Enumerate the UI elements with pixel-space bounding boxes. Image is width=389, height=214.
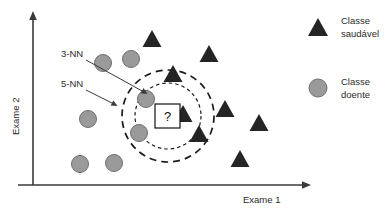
data-point-circle bbox=[80, 111, 97, 128]
data-point-triangle bbox=[250, 114, 269, 131]
figure-canvas: Exame 1 Exame 2 ? bbox=[0, 0, 389, 214]
data-point-triangle bbox=[190, 125, 209, 142]
data-point-triangle bbox=[143, 30, 162, 47]
legend-label-doente-line1: Classe bbox=[341, 76, 370, 87]
legend: Classe saudável Classe doente bbox=[308, 15, 379, 100]
legend-item-classe-doente: Classe doente bbox=[309, 76, 370, 100]
x-axis-label: Exame 1 bbox=[243, 194, 281, 205]
data-point-circle bbox=[123, 51, 140, 68]
annotation-3nn-label: 3-NN bbox=[61, 48, 83, 59]
annotation-5nn-leader-line bbox=[86, 90, 114, 104]
data-point-circle bbox=[72, 156, 89, 173]
legend-label-saudavel-line1: Classe bbox=[341, 15, 370, 26]
x-axis-arrowhead bbox=[302, 181, 311, 189]
knn-scatter-figure: Exame 1 Exame 2 ? bbox=[0, 0, 389, 214]
y-axis-arrowhead bbox=[29, 11, 37, 20]
data-point-circle bbox=[131, 125, 148, 142]
data-point-circle bbox=[106, 155, 123, 172]
legend-label-doente-line2: doente bbox=[341, 89, 370, 100]
data-point-triangle bbox=[164, 65, 183, 82]
annotation-5nn-label: 5-NN bbox=[61, 78, 83, 89]
query-point-label: ? bbox=[164, 109, 171, 124]
y-axis-label: Exame 2 bbox=[10, 98, 21, 136]
data-point-triangle bbox=[216, 100, 235, 117]
annotation-5nn: 5-NN bbox=[61, 78, 118, 106]
legend-label-saudavel-line2: saudável bbox=[341, 28, 379, 39]
legend-item-classe-saudavel: Classe saudável bbox=[308, 15, 379, 39]
data-point-triangle bbox=[231, 150, 250, 167]
triangle-marker-icon bbox=[308, 18, 328, 36]
query-point: ? bbox=[155, 104, 180, 128]
data-point-triangle bbox=[200, 45, 219, 62]
circle-marker-icon bbox=[309, 79, 327, 97]
series-classe-saudavel bbox=[143, 30, 269, 167]
